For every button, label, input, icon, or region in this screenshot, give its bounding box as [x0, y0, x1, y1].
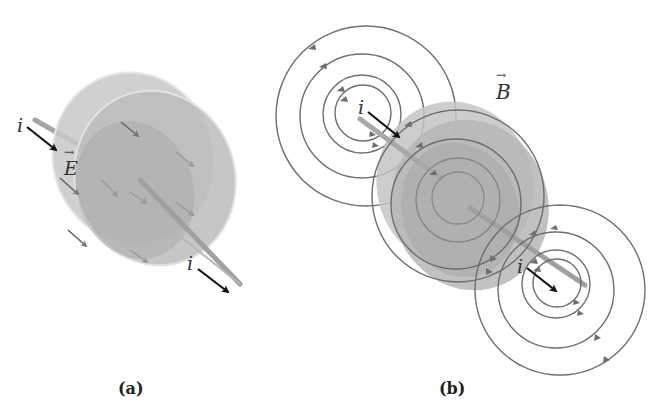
current-label-a-out: i	[187, 252, 193, 274]
caption-b: (b)	[439, 379, 465, 398]
efield-label: E	[64, 157, 78, 179]
current-label-b-out: i	[517, 255, 523, 277]
panel-a	[27, 51, 258, 292]
current-arrow-out	[198, 269, 228, 292]
e-field-arrow	[68, 230, 86, 246]
panel-b	[276, 26, 645, 375]
current-arrow-out	[527, 268, 556, 291]
bfield-symbol: B	[496, 80, 511, 104]
bfield-label: B	[496, 80, 511, 104]
capacitor-field-diagram	[0, 0, 668, 417]
caption-a: (a)	[118, 379, 144, 398]
current-label-a-in: i	[17, 114, 23, 136]
current-label-b-in: i	[358, 96, 364, 118]
efield-symbol: E	[64, 157, 78, 179]
